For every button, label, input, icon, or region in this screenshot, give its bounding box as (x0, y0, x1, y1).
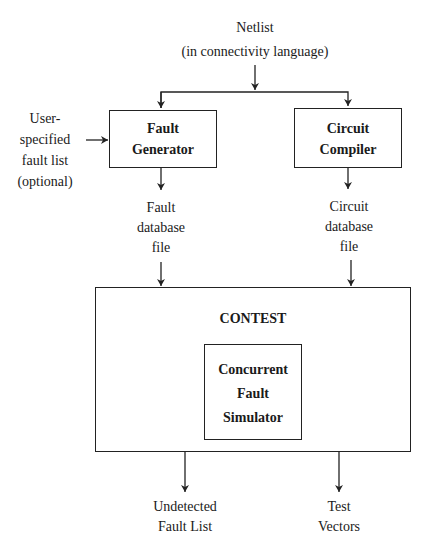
fault-db-label: Fault database file (121, 198, 201, 258)
user-line-1: User- (10, 108, 80, 129)
netlist-title: Netlist (155, 18, 355, 38)
fault-generator-line-2: Generator (110, 139, 216, 160)
user-line-4: (optional) (10, 171, 80, 192)
user-line-2: specified (10, 129, 80, 150)
circuit-compiler-block: Circuit Compiler (294, 108, 402, 168)
netlist-subtitle: (in connectivity language) (155, 42, 355, 62)
circuit-db-line-1: Circuit (309, 197, 389, 217)
fault-generator-block: Fault Generator (109, 110, 217, 168)
user-line-3: fault list (10, 150, 80, 171)
connector-lines (0, 0, 424, 552)
simulator-line-3: Simulator (205, 406, 301, 430)
simulator-block: Concurrent Fault Simulator (204, 344, 302, 440)
vectors-line-1: Test (299, 497, 379, 517)
contest-title: CONTEST (96, 309, 410, 329)
simulator-line-2: Fault (205, 382, 301, 406)
fault-db-line-1: Fault (121, 198, 201, 218)
undetected-line-2: Fault List (135, 517, 235, 537)
circuit-compiler-line-1: Circuit (295, 118, 401, 139)
circuit-compiler-line-2: Compiler (295, 139, 401, 160)
netlist-label: Netlist (in connectivity language) (155, 18, 355, 62)
user-fault-list-label: User- specified fault list (optional) (10, 108, 80, 192)
circuit-db-line-3: file (309, 237, 389, 257)
fault-db-line-2: database (121, 218, 201, 238)
undetected-fault-list-label: Undetected Fault List (135, 497, 235, 537)
fault-db-line-3: file (121, 238, 201, 258)
fault-generator-line-1: Fault (110, 118, 216, 139)
circuit-db-line-2: database (309, 217, 389, 237)
simulator-line-1: Concurrent (205, 358, 301, 382)
undetected-line-1: Undetected (135, 497, 235, 517)
contest-block: CONTEST Concurrent Fault Simulator (95, 287, 411, 452)
vectors-line-2: Vectors (299, 517, 379, 537)
test-vectors-label: Test Vectors (299, 497, 379, 537)
circuit-db-label: Circuit database file (309, 197, 389, 257)
